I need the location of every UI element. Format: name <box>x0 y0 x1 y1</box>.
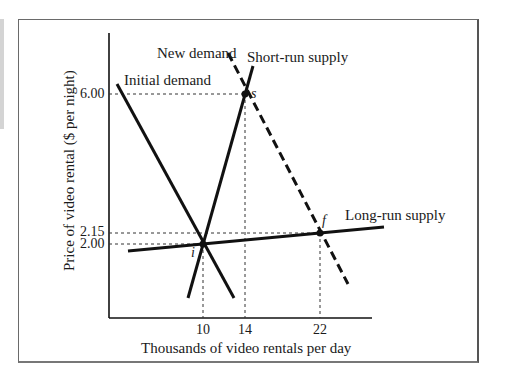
short-run-supply-label: Short-run supply <box>247 50 348 65</box>
point-f-label: f <box>322 214 326 228</box>
point-s-label: s <box>251 87 256 101</box>
short-run-supply-line <box>188 66 253 298</box>
point-i-label: i <box>191 246 195 260</box>
x-tick-14: 14 <box>238 323 252 337</box>
point-s-marker <box>242 91 249 98</box>
x-tick-22: 22 <box>313 323 327 337</box>
initial-demand-label: Initial demand <box>124 73 211 88</box>
point-f-marker <box>317 230 324 237</box>
long-run-supply-label: Long-run supply <box>345 208 445 223</box>
y-tick-6-00: 6.00 <box>80 87 105 101</box>
new-demand-label: New demand <box>157 46 237 61</box>
y-axis-label: Price of video rental ($ per night) <box>62 70 77 271</box>
y-tick-2-00: 2.00 <box>80 237 105 251</box>
long-run-supply-line <box>128 227 384 251</box>
x-axis-label: Thousands of video rentals per day <box>141 341 351 356</box>
point-i-marker <box>200 241 207 248</box>
x-tick-10: 10 <box>196 323 210 337</box>
